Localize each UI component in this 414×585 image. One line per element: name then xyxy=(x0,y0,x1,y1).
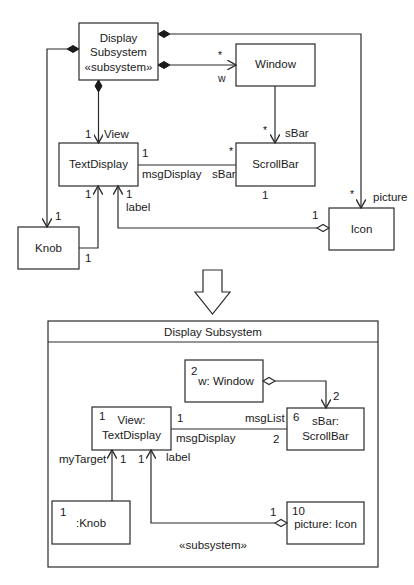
part-view[interactable]: 1 View: TextDisplay xyxy=(92,407,171,450)
composition-diamond-icon xyxy=(95,80,102,92)
knob-multiplicity: 1 xyxy=(55,210,61,222)
association-knob-textdisplay: 1 1 xyxy=(79,186,98,264)
window-sbar-role: sBar xyxy=(285,127,309,139)
composite-structure: Display Subsystem «subsystem» 2 w: Windo… xyxy=(48,321,378,567)
window-sbar-multiplicity: * xyxy=(263,124,267,136)
view-msg-multiplicity: 1 xyxy=(177,412,183,424)
part-window-name: w: Window xyxy=(197,375,254,387)
part-sbar-multiplicity: 6 xyxy=(293,411,299,423)
class-diagram: Display Subsystem «subsystem» Window Tex… xyxy=(18,23,408,269)
window-multiplicity: * xyxy=(218,49,222,61)
association-window-scrollbar: * sBar xyxy=(263,86,309,143)
part-sbar[interactable]: 6 sBar: ScrollBar xyxy=(287,408,364,450)
td-msg-multiplicity: 1 xyxy=(142,147,148,159)
icon-agg-multiplicity: 1 xyxy=(312,209,318,221)
class-display-subsystem-line2: Subsystem xyxy=(90,46,147,58)
part-knob[interactable]: 1 :Knob xyxy=(52,501,130,544)
part-sbar-line1: sBar: xyxy=(312,415,339,427)
class-display-subsystem-stereotype: «subsystem» xyxy=(85,61,153,73)
part-picture-name: picture: Icon xyxy=(294,518,357,530)
class-scroll-bar-name: ScrollBar xyxy=(252,158,299,170)
view-multiplicity: 1 xyxy=(85,128,91,140)
picture-agg-multiplicity: 1 xyxy=(270,506,276,518)
sb-bottom-multiplicity: 1 xyxy=(262,189,268,201)
class-knob-name: Knob xyxy=(35,242,62,254)
composition-diamond-icon xyxy=(158,31,170,38)
class-window[interactable]: Window xyxy=(236,44,315,86)
composition-knob: 1 xyxy=(47,46,79,228)
sb-multiplicity: * xyxy=(229,145,233,157)
knob-view-multiplicity: 1 xyxy=(120,453,126,465)
part-window[interactable]: 2 w: Window xyxy=(185,360,263,402)
sb-role: sBar xyxy=(212,168,236,180)
class-icon[interactable]: Icon xyxy=(329,208,394,250)
my-target-role: myTarget xyxy=(59,453,107,465)
class-scroll-bar[interactable]: ScrollBar xyxy=(236,143,315,186)
class-text-display-name: TextDisplay xyxy=(69,158,128,170)
part-view-line1: View: xyxy=(118,414,146,426)
td-msg-role: msgDisplay xyxy=(142,168,202,180)
composition-view: 1 View xyxy=(85,80,129,143)
part-picture[interactable]: 10 picture: Icon xyxy=(287,502,364,544)
label-multiplicity: 1 xyxy=(126,188,132,200)
subsystem-title: Display Subsystem xyxy=(164,326,262,338)
label-view-multiplicity: 1 xyxy=(138,453,144,465)
label-role: label xyxy=(166,451,190,463)
composition-diamond-icon xyxy=(67,46,79,53)
part-picture-multiplicity: 10 xyxy=(292,505,305,517)
class-text-display[interactable]: TextDisplay xyxy=(59,143,138,186)
part-view-line2: TextDisplay xyxy=(102,429,161,441)
part-sbar-line2: ScrollBar xyxy=(302,430,349,442)
part-window-multiplicity: 2 xyxy=(191,365,197,377)
label-role: label xyxy=(126,201,150,213)
down-arrow-icon xyxy=(195,270,230,314)
sbar-msg-multiplicity: 2 xyxy=(273,433,279,445)
composition-window: * w xyxy=(158,49,236,84)
class-icon-name: Icon xyxy=(351,223,373,235)
class-display-subsystem-line1: Display xyxy=(100,32,138,44)
class-window-name: Window xyxy=(255,58,297,70)
class-knob[interactable]: Knob xyxy=(18,227,79,269)
part-view-multiplicity: 1 xyxy=(99,410,105,422)
aggregation-icon-textdisplay: 1 label 1 xyxy=(118,186,329,232)
msg-list-role: msgList xyxy=(245,412,285,424)
icon-role: picture xyxy=(373,191,408,203)
part-knob-multiplicity: 1 xyxy=(60,506,66,518)
uml-diagram: Display Subsystem «subsystem» Window Tex… xyxy=(0,0,414,585)
part-knob-name: :Knob xyxy=(76,517,106,529)
knob-bottom-multiplicity: 1 xyxy=(85,252,91,264)
icon-multiplicity: * xyxy=(350,188,354,200)
aggregation-diamond-icon xyxy=(317,225,329,232)
composition-diamond-icon xyxy=(158,62,170,69)
window-role: w xyxy=(217,72,226,84)
w-sbar-multiplicity: 2 xyxy=(333,390,339,402)
subsystem-stereotype: «subsystem» xyxy=(179,539,247,551)
view-role: View xyxy=(104,128,129,140)
class-display-subsystem[interactable]: Display Subsystem «subsystem» xyxy=(79,23,158,80)
knob-td-multiplicity: 1 xyxy=(85,188,91,200)
msg-display-role: msgDisplay xyxy=(176,432,236,444)
